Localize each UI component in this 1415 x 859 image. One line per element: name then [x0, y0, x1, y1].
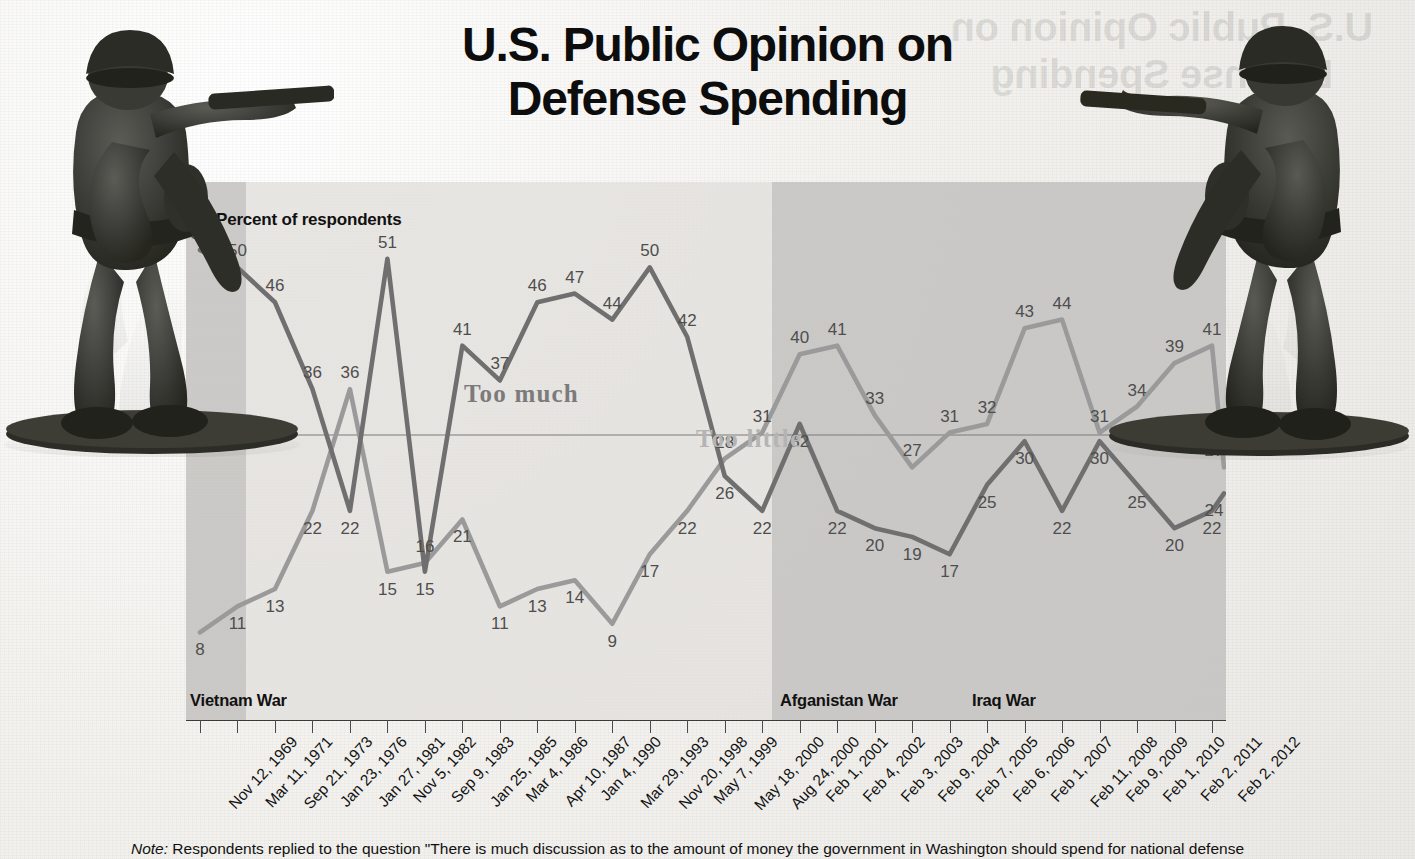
point-label-too-much: 50 — [228, 241, 247, 260]
point-label-too-little: 31 — [940, 407, 959, 426]
point-label-too-much: 50 — [640, 241, 659, 260]
footnote-text: Respondents replied to the question "The… — [168, 840, 1244, 857]
point-label-too-much: 22 — [1203, 519, 1222, 538]
point-label-too-much: 47 — [565, 268, 584, 287]
x-axis-tick — [237, 720, 238, 733]
point-label-too-little: 40 — [790, 328, 809, 347]
point-label-too-much: 22 — [753, 519, 772, 538]
point-label-too-much: 22 — [828, 519, 847, 538]
x-axis-tick — [312, 720, 313, 733]
point-label-too-little: 33 — [865, 389, 884, 408]
title-line-2: Defense Spending — [0, 72, 1415, 126]
footnote-prefix: Note: — [131, 840, 168, 857]
point-label-too-much: 36 — [303, 363, 322, 382]
x-axis-tick — [1062, 720, 1063, 733]
point-label-too-much: 51 — [378, 233, 397, 252]
point-label-too-little: 27 — [1205, 441, 1224, 460]
page-title: U.S. Public Opinion on Defense Spending — [0, 18, 1415, 126]
x-axis-tick — [912, 720, 913, 733]
title-line-1: U.S. Public Opinion on — [0, 18, 1415, 72]
point-label-too-much: 25 — [1128, 493, 1147, 512]
x-axis-tick — [1175, 720, 1176, 733]
x-axis-tick — [1212, 720, 1213, 733]
point-label-too-little: 44 — [1053, 294, 1072, 313]
point-label-too-much: 22 — [1053, 519, 1072, 538]
point-label-too-little: 13 — [528, 597, 547, 616]
x-axis-tick — [950, 720, 951, 733]
x-axis-tick — [650, 720, 651, 733]
x-axis-tick — [837, 720, 838, 733]
point-label-too-little: 13 — [266, 597, 285, 616]
x-axis-labels: Nov 12, 1969Mar 11, 1971Sep 21, 1973Jan … — [0, 733, 1415, 838]
x-axis-tick — [1137, 720, 1138, 733]
point-label-too-much: 44 — [603, 294, 622, 313]
point-label-too-little: 34 — [1128, 381, 1147, 400]
point-label-too-much: 41 — [453, 320, 472, 339]
point-label-too-much: 20 — [1165, 536, 1184, 555]
x-axis-tick — [725, 720, 726, 733]
point-label-too-much: 17 — [940, 562, 959, 581]
x-axis-tick — [350, 720, 351, 733]
point-label-too-little: 32 — [978, 398, 997, 417]
x-axis-tick — [200, 720, 201, 733]
point-label-too-little: 21 — [453, 527, 472, 546]
x-axis-tick — [612, 720, 613, 733]
point-label-too-much: 37 — [490, 354, 509, 373]
x-axis-ticks — [186, 720, 1226, 734]
x-axis-tick — [875, 720, 876, 733]
point-label-too-much: 42 — [678, 311, 697, 330]
point-label-too-little: 31 — [753, 407, 772, 426]
point-label-too-much: 25 — [978, 493, 997, 512]
x-axis-tick — [575, 720, 576, 733]
x-axis-tick — [1100, 720, 1101, 733]
x-axis-tick — [275, 720, 276, 733]
x-axis-tick — [1025, 720, 1026, 733]
x-axis-tick — [537, 720, 538, 733]
point-label-too-much: 26 — [715, 484, 734, 503]
series-label-too-much: Too much — [464, 380, 579, 407]
point-label-too-little: 41 — [1203, 320, 1222, 339]
x-axis-tick — [687, 720, 688, 733]
series-label-too-little: Too little — [696, 425, 802, 452]
point-label-too-little: 31 — [1090, 407, 1109, 426]
point-label-too-little: 27 — [903, 441, 922, 460]
point-label-too-little: 11 — [491, 614, 509, 633]
point-label-too-little: 41 — [828, 320, 847, 339]
point-label-too-much: 15 — [415, 580, 434, 599]
point-label-too-little: 22 — [303, 519, 322, 538]
point-label-too-much: 46 — [528, 276, 547, 295]
point-label-too-little: 39 — [1165, 337, 1184, 356]
point-label-too-much: 46 — [266, 276, 285, 295]
point-label-too-little: 16 — [415, 537, 434, 556]
x-axis-tick — [462, 720, 463, 733]
point-label-too-little: 36 — [340, 363, 359, 382]
x-axis-tick — [500, 720, 501, 733]
point-label-too-much: 30 — [1090, 449, 1109, 468]
line-chart: 5250463622511541374647445042262232222019… — [186, 182, 1226, 720]
x-axis-tick — [987, 720, 988, 733]
point-label-too-much: 52 — [191, 224, 210, 243]
point-label-too-little: 11 — [229, 614, 247, 633]
x-axis-tick — [387, 720, 388, 733]
point-label-too-little: 22 — [678, 519, 697, 538]
point-label-too-much: 22 — [340, 519, 359, 538]
x-axis-tick — [800, 720, 801, 733]
point-label-too-much: 19 — [903, 545, 922, 564]
x-axis-tick — [425, 720, 426, 733]
x-axis-tick — [762, 720, 763, 733]
chart-footnote: Note: Respondents replied to the questio… — [131, 840, 1415, 858]
point-label-too-much: 24 — [1205, 501, 1224, 520]
point-label-too-little: 15 — [378, 580, 397, 599]
point-label-too-little: 14 — [565, 588, 584, 607]
point-label-too-little: 8 — [195, 640, 204, 659]
point-label-too-much: 20 — [865, 536, 884, 555]
point-label-too-little: 43 — [1015, 302, 1034, 321]
point-label-too-much: 30 — [1015, 449, 1034, 468]
point-label-too-little: 9 — [608, 632, 617, 651]
point-label-too-little: 17 — [640, 562, 659, 581]
